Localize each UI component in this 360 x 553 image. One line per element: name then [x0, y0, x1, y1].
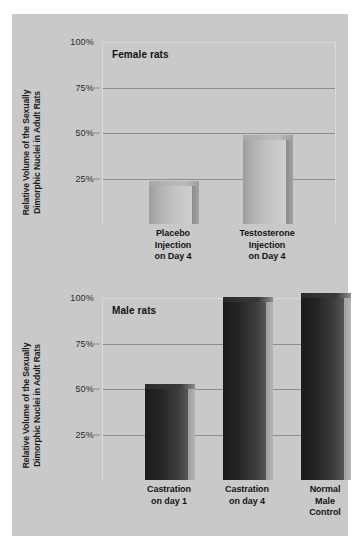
- x-tick-label-line: on Day 4: [230, 251, 304, 263]
- y-axis-label-female: Relative Volume of the Sexually Dimorphi…: [12, 26, 52, 278]
- y-axis-ticks-female: 100%75%50%25%: [52, 26, 98, 278]
- y-tick-label: 25%: [75, 174, 94, 184]
- x-tick-label-line: Testosterone: [230, 228, 304, 240]
- y-tick-label: 75%: [75, 339, 94, 349]
- bar-front-face: [149, 186, 192, 224]
- y-tick-mark: [94, 133, 100, 134]
- x-tick-label-line: Control: [288, 507, 360, 519]
- bar-front-face: [145, 389, 188, 480]
- x-tick-label: Castrationon day 4: [210, 484, 284, 507]
- y-tick-label: 100%: [70, 293, 94, 303]
- y-axis-label-line1: Relative Volume of the Sexually: [22, 89, 32, 215]
- y-axis-label-male: Relative Volume of the Sexually Dimorphi…: [12, 282, 52, 528]
- x-tick-label-line: Injection: [136, 240, 210, 252]
- bars-female: [103, 42, 335, 224]
- y-tick-mark: [94, 389, 100, 390]
- x-tick-label-line: Placebo: [136, 228, 210, 240]
- bar-side-face: [286, 140, 293, 224]
- bar-side-face: [266, 302, 273, 480]
- y-tick-mark: [94, 87, 100, 88]
- bar: [243, 135, 293, 224]
- y-axis-label-line2: Dimorphic Nuclei in Adult Rats: [32, 91, 42, 214]
- bars-male: [103, 298, 335, 480]
- x-tick-label: PlaceboInjectionon Day 4: [136, 228, 210, 263]
- x-tick-label: NormalMaleControl: [288, 484, 360, 519]
- y-axis-label-line2: Dimorphic Nuclei in Adult Rats: [32, 344, 42, 467]
- x-tick-label-line: Normal: [288, 484, 360, 496]
- y-tick-mark: [94, 434, 100, 435]
- bar: [145, 384, 195, 480]
- bar: [223, 297, 273, 480]
- x-tick-label-line: Injection: [230, 240, 304, 252]
- y-tick-label: 50%: [75, 128, 94, 138]
- chart-female-rats: Relative Volume of the Sexually Dimorphi…: [12, 26, 348, 278]
- x-tick-label-line: on Day 4: [136, 251, 210, 263]
- bar-front-face: [301, 298, 344, 480]
- x-tick-label-line: Castration: [210, 484, 284, 496]
- y-tick-label: 75%: [75, 83, 94, 93]
- y-tick-label: 50%: [75, 384, 94, 394]
- figure-panel: Relative Volume of the Sexually Dimorphi…: [12, 14, 348, 536]
- y-tick-mark: [94, 343, 100, 344]
- bar: [149, 181, 199, 224]
- x-tick-label: Castrationon day 1: [132, 484, 206, 507]
- bar: [301, 293, 351, 480]
- plot-area-female: Female rats: [102, 42, 336, 224]
- bar-side-face: [188, 389, 195, 480]
- bar-side-face: [192, 186, 199, 224]
- x-tick-label: TestosteroneInjectionon Day 4: [230, 228, 304, 263]
- y-axis-label-line1: Relative Volume of the Sexually: [22, 342, 32, 468]
- y-tick-mark: [94, 178, 100, 179]
- plot-area-male: Male rats: [102, 298, 336, 480]
- x-tick-label-line: on day 1: [132, 496, 206, 508]
- bar-front-face: [223, 302, 266, 480]
- chart-male-rats: Relative Volume of the Sexually Dimorphi…: [12, 282, 348, 528]
- y-tick-label: 25%: [75, 430, 94, 440]
- bar-front-face: [243, 140, 286, 224]
- x-tick-label-line: Male: [288, 496, 360, 508]
- y-tick-label: 100%: [70, 37, 94, 47]
- y-axis-ticks-male: 100%75%50%25%: [52, 282, 98, 528]
- x-tick-label-line: Castration: [132, 484, 206, 496]
- x-tick-label-line: on day 4: [210, 496, 284, 508]
- bar-side-face: [344, 298, 351, 480]
